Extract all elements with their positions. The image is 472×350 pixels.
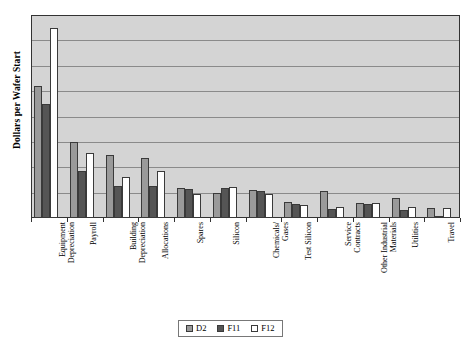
- bar-f11: [78, 171, 86, 218]
- bar-f12: [408, 207, 416, 218]
- bars-layer: [31, 15, 460, 218]
- bar-group: [177, 15, 207, 218]
- x-axis-label: Spares: [196, 222, 205, 312]
- legend-entry-d2: D2: [186, 324, 206, 333]
- bar-f12: [300, 205, 308, 218]
- bar-f11: [114, 186, 122, 218]
- legend-label: F12: [261, 324, 274, 333]
- bar-f11: [149, 186, 157, 218]
- legend-label: F11: [227, 324, 240, 333]
- x-axis-label: Building Depreciation: [129, 222, 147, 312]
- bar-d2: [106, 155, 114, 218]
- x-axis-label: Utilities: [411, 222, 420, 312]
- legend-swatch-icon: [251, 325, 258, 332]
- bar-d2: [213, 193, 221, 218]
- x-axis-label: Allocations: [161, 222, 170, 312]
- bar-group: [427, 15, 457, 218]
- bar-d2: [427, 208, 435, 218]
- bar-group: [70, 15, 100, 218]
- bar-f12: [157, 171, 165, 218]
- bar-f11: [364, 204, 372, 218]
- bar-d2: [320, 191, 328, 218]
- chart-legend: D2F11F12: [178, 320, 283, 337]
- bar-f12: [372, 203, 380, 218]
- bar-f11: [42, 104, 50, 218]
- bar-d2: [356, 203, 364, 218]
- x-axis-label: Service Contracts: [344, 222, 362, 312]
- x-axis-label: Equipment Depreciation: [58, 222, 76, 312]
- bar-group: [106, 15, 136, 218]
- bar-d2: [34, 86, 42, 218]
- y-axis-title: Dollars per Wafer Start: [9, 20, 25, 180]
- bar-f12: [193, 194, 201, 218]
- bar-d2: [70, 142, 78, 218]
- bar-d2: [392, 198, 400, 218]
- bar-f11: [257, 191, 265, 218]
- bar-group: [141, 15, 171, 218]
- bar-d2: [249, 190, 257, 218]
- bar-group: [284, 15, 314, 218]
- bar-f12: [443, 208, 451, 218]
- x-axis-label: Test Silicon: [304, 222, 313, 312]
- x-axis-label: Other Industrial Materials: [380, 222, 398, 312]
- bar-f11: [292, 204, 300, 218]
- bar-group: [34, 15, 64, 218]
- bar-f11: [328, 209, 336, 218]
- legend-swatch-icon: [186, 325, 193, 332]
- x-axis-label: Payroll: [89, 222, 98, 312]
- legend-label: D2: [196, 324, 206, 333]
- bar-d2: [284, 202, 292, 218]
- bar-d2: [141, 158, 149, 218]
- x-axis-label: Silicon: [232, 222, 241, 312]
- bar-f12: [122, 177, 130, 218]
- x-axis-label: Travel: [447, 222, 456, 312]
- bar-f12: [336, 207, 344, 218]
- x-axis-label: Chemicals/ Gases: [272, 222, 290, 312]
- bar-f12: [229, 187, 237, 218]
- legend-entry-f12: F12: [251, 324, 274, 333]
- bar-group: [213, 15, 243, 218]
- bar-f11: [221, 188, 229, 218]
- bar-f11: [185, 189, 193, 218]
- legend-swatch-icon: [217, 325, 224, 332]
- bar-f12: [86, 153, 94, 218]
- legend-entry-f11: F11: [217, 324, 240, 333]
- bar-chart: Dollars per Wafer Start Equipment Deprec…: [0, 0, 472, 350]
- bar-group: [356, 15, 386, 218]
- bar-f11: [400, 210, 408, 218]
- bar-f12: [50, 28, 58, 218]
- bar-group: [249, 15, 279, 218]
- x-axis-category-labels: Equipment DepreciationPayrollBuilding De…: [0, 222, 472, 317]
- bar-group: [320, 15, 350, 218]
- bar-d2: [177, 188, 185, 218]
- bar-group: [392, 15, 422, 218]
- bar-f12: [265, 194, 273, 218]
